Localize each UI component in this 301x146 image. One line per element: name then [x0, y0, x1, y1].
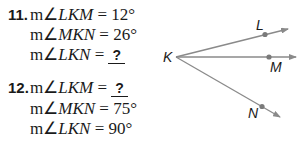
ray-kn	[176, 57, 280, 117]
label-l: L	[256, 17, 264, 33]
angle-figure: K L M N	[0, 0, 301, 146]
point-n	[259, 104, 264, 109]
label-m: M	[270, 59, 282, 75]
ray-kl	[176, 29, 288, 57]
label-n: N	[248, 105, 259, 121]
vertex-label-k: K	[163, 49, 173, 65]
